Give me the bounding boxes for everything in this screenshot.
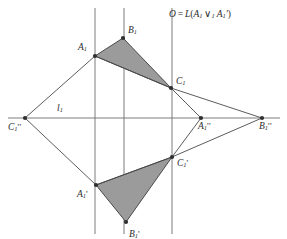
segment-C1p-B1pp bbox=[172, 118, 262, 157]
vertex-A1p[interactable] bbox=[94, 183, 98, 187]
point-label-subscript: 1 bbox=[84, 45, 87, 52]
line-label-l1: l1 bbox=[57, 104, 63, 114]
vertex-B1pp[interactable] bbox=[260, 116, 264, 120]
segment-C1-B1pp bbox=[171, 88, 262, 118]
point-label-B1p: B1' bbox=[129, 230, 140, 239]
formula-equals: = bbox=[178, 9, 183, 19]
formula-prefix: O bbox=[169, 9, 176, 19]
vertex-C1[interactable] bbox=[169, 86, 173, 90]
shaded-triangles-group bbox=[95, 38, 172, 222]
vertex-B1[interactable] bbox=[121, 36, 125, 40]
point-label-subscript: 1 bbox=[134, 28, 137, 35]
segment-C1pp-A1p bbox=[25, 118, 96, 185]
point-label-C1pp: C1'' bbox=[8, 123, 21, 133]
vertex-A1pp[interactable] bbox=[199, 116, 203, 120]
point-label-prime: ' bbox=[138, 229, 140, 239]
vertex-A1[interactable] bbox=[93, 54, 97, 58]
point-label-prime: '' bbox=[207, 121, 211, 131]
point-label-C1: C1 bbox=[176, 77, 186, 87]
upper-triangle bbox=[95, 38, 171, 88]
vertex-C1pp[interactable] bbox=[23, 116, 27, 120]
vertex-C1p[interactable] bbox=[170, 155, 174, 159]
point-label-B1: B1 bbox=[128, 26, 137, 36]
point-label-prime: '' bbox=[268, 121, 272, 131]
lower-triangle bbox=[96, 157, 172, 222]
point-label-prime: ' bbox=[86, 189, 88, 199]
formula-arg1-subscript: 1 bbox=[199, 12, 202, 19]
formula-join-subscript: 1 bbox=[211, 12, 214, 19]
point-label-B1pp: B1'' bbox=[259, 122, 272, 132]
point-label-C1p: C1' bbox=[177, 159, 189, 169]
point-label-A1p: A1' bbox=[77, 190, 88, 200]
vertex-B1p[interactable] bbox=[124, 220, 128, 224]
figure-canvas bbox=[0, 0, 287, 239]
formula-label: O = L(A1 ∨1 A1') bbox=[169, 10, 231, 20]
formula-close-paren: ) bbox=[228, 9, 231, 19]
point-label-prime: '' bbox=[18, 122, 22, 132]
line-label-subscript: 1 bbox=[60, 106, 63, 113]
point-label-prime: ' bbox=[187, 158, 189, 168]
point-label-A1: A1 bbox=[78, 43, 87, 53]
point-label-A1pp: A1'' bbox=[198, 122, 211, 132]
geometry-figure: O = L(A1 ∨1 A1') l1 A1B1C1C1''A1''B1''C1… bbox=[0, 0, 287, 239]
point-label-subscript: 1 bbox=[182, 79, 185, 86]
